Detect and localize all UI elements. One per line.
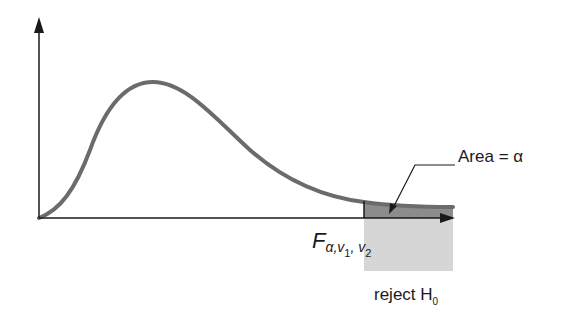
reject-label: reject H0 xyxy=(374,285,438,307)
density-curve xyxy=(39,82,453,218)
area-label: Area = α xyxy=(458,147,523,167)
y-axis-arrow-icon xyxy=(34,17,44,33)
area-pointer xyxy=(393,165,455,208)
critical-value-label: Fα,v1, v2 xyxy=(312,228,371,259)
reject-region xyxy=(364,218,453,271)
